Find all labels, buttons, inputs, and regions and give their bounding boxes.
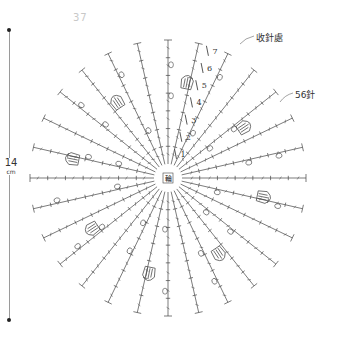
chain-loop [274, 203, 281, 209]
stitch-tick [137, 169, 138, 173]
stitch-spoke [44, 118, 156, 172]
stitch-tick [42, 234, 45, 241]
round-number: 1 [181, 150, 186, 159]
stitch-tick [224, 52, 231, 55]
stitch-tick [250, 195, 251, 199]
stitch-tick [185, 260, 189, 261]
stitch-tick [147, 95, 151, 96]
stitch-tick [58, 261, 63, 267]
stitch-tick [181, 243, 185, 244]
finish-leader-line [240, 36, 254, 44]
stitch-spoke [181, 184, 293, 238]
stitch-count-leader-line [280, 93, 293, 102]
round-joining-mark [201, 63, 203, 73]
stitch-spoke [137, 43, 165, 164]
round-joining-mark [206, 46, 208, 56]
chain-loop [54, 197, 61, 203]
stitch-tick [173, 147, 177, 148]
stitch-tick [58, 89, 63, 95]
stitch-tick [143, 78, 147, 79]
stitch-tick [139, 60, 143, 61]
chain-loop [98, 223, 106, 230]
stitch-tick [137, 183, 138, 187]
stitch-slash [205, 158, 206, 162]
stitch-tick [177, 226, 181, 227]
chain-loop [78, 101, 86, 108]
stitch-slash [177, 199, 181, 200]
stitch-slash [223, 295, 227, 296]
stitch-tick [102, 161, 103, 165]
stitch-spoke [174, 54, 228, 166]
stitch-tick [273, 261, 278, 267]
stitch-tick [105, 52, 112, 55]
stitch-tick [251, 68, 257, 73]
stitch-slash [221, 150, 222, 154]
puff-stitch-icon [108, 93, 125, 111]
chain-loop [227, 228, 235, 235]
stitch-tick [285, 149, 286, 153]
chain-loop [214, 189, 221, 195]
stitch-slash [237, 143, 238, 147]
stitch-tick [159, 147, 163, 148]
stitch-slash [146, 187, 147, 191]
stitch-tick [177, 129, 181, 130]
crochet-chart: 1234567輪 [0, 0, 340, 339]
stitch-slash [50, 233, 51, 237]
stitch-tick [79, 68, 85, 73]
stitch-tick [233, 161, 234, 165]
round-joining-mark [190, 97, 192, 107]
chain-loop [206, 145, 214, 152]
stitch-tick [198, 183, 199, 187]
stitch-tick [85, 195, 86, 199]
chain-loop [245, 160, 252, 166]
stitch-slash [82, 217, 83, 221]
chain-loop [169, 93, 174, 99]
stitch-slash [98, 210, 99, 214]
stitch-tick [233, 191, 234, 195]
chain-loop [169, 62, 174, 68]
stitch-slash [189, 166, 190, 170]
stitch-tick [68, 199, 69, 203]
stitch-tick [189, 278, 193, 279]
stitch-slash [184, 215, 188, 216]
stitch-tick [291, 234, 294, 241]
stitch-tick [198, 169, 199, 173]
stitch-slash [253, 135, 254, 139]
stitch-tick [155, 226, 159, 227]
stitch-tick [105, 301, 112, 304]
round-number: 3 [191, 116, 196, 125]
round-number: 6 [207, 64, 212, 73]
stitch-spoke [137, 192, 165, 313]
stitch-tick [151, 112, 155, 113]
puff-stitch-icon [256, 190, 272, 204]
stitch-tick [193, 60, 197, 61]
round-joining-mark [185, 115, 187, 125]
stitch-tick [50, 203, 51, 207]
stitch-slash [140, 124, 144, 125]
stitch-slash [207, 263, 211, 264]
stitch-tick [291, 115, 294, 122]
puff-stitch-icon [142, 266, 156, 282]
stitch-tick [224, 301, 231, 304]
chain-loop [115, 161, 122, 167]
chain-loop [85, 154, 92, 160]
round-joining-mark [196, 80, 198, 90]
stitch-spoke [171, 43, 199, 164]
chain-loop [276, 153, 283, 159]
stitch-slash [192, 231, 196, 232]
stitch-slash [130, 194, 131, 198]
stitch-spoke [182, 147, 303, 175]
stitch-spoke [33, 181, 154, 209]
stitch-slash [156, 156, 160, 157]
stitch-tick [185, 95, 189, 96]
stitch-slash [148, 140, 152, 141]
stitch-spoke [33, 147, 154, 175]
round-joining-mark [175, 149, 177, 159]
magic-ring-label: 輪 [165, 174, 172, 183]
stitch-tick [159, 208, 163, 209]
stitch-tick [285, 203, 286, 207]
puff-stitch-icon [235, 118, 253, 135]
stitch-tick [181, 112, 185, 113]
stitch-tick [151, 243, 155, 244]
chain-loop [102, 121, 110, 128]
